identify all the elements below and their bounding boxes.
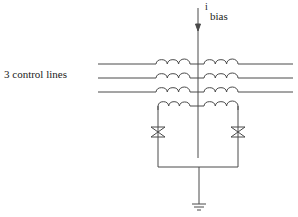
control-line-1 — [98, 59, 293, 64]
control-line-3 — [98, 87, 293, 92]
control-line-2 — [98, 73, 293, 78]
circuit-diagram — [0, 0, 298, 217]
bias-current-arrow — [196, 8, 201, 158]
ground-icon — [192, 204, 206, 210]
